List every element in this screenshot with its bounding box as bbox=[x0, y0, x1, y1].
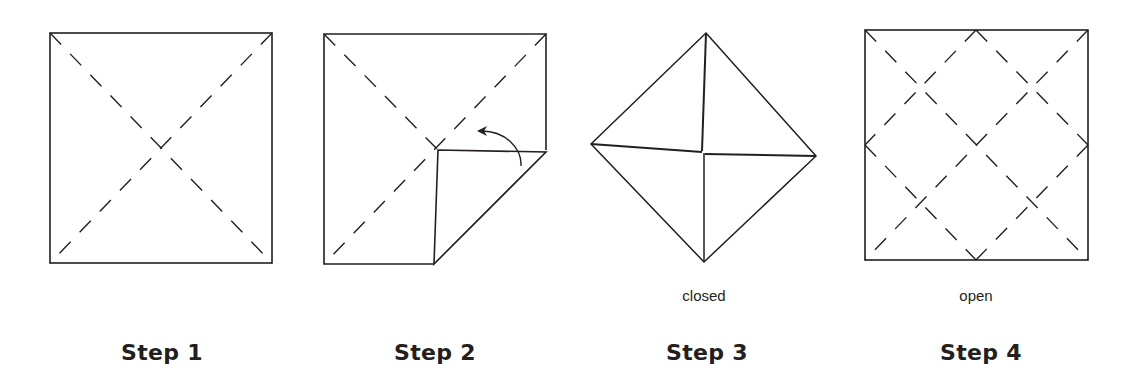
step-2-figure bbox=[324, 34, 546, 264]
dashed-fold-line bbox=[865, 30, 976, 145]
center-fold-line bbox=[702, 33, 706, 151]
step-3-caption: closed bbox=[654, 287, 754, 304]
center-fold-line bbox=[705, 154, 816, 156]
step-3-label: Step 3 bbox=[637, 340, 777, 365]
step-2-label: Step 2 bbox=[365, 340, 505, 365]
center-fold-line bbox=[591, 144, 702, 152]
step-1-label: Step 1 bbox=[92, 340, 232, 365]
diagram-canvas bbox=[0, 0, 1132, 385]
dashed-fold-line bbox=[324, 34, 438, 150]
folded-flap bbox=[434, 150, 546, 264]
step-4-caption: open bbox=[926, 287, 1026, 304]
origami-steps-diagram: closed open Step 1 Step 2 Step 3 Step 4 bbox=[0, 0, 1132, 385]
dashed-fold-line bbox=[976, 30, 1088, 145]
step-4-label: Step 4 bbox=[911, 340, 1051, 365]
step-3-figure bbox=[591, 33, 816, 262]
step-1-figure bbox=[50, 33, 272, 263]
step-4-figure bbox=[865, 30, 1088, 260]
